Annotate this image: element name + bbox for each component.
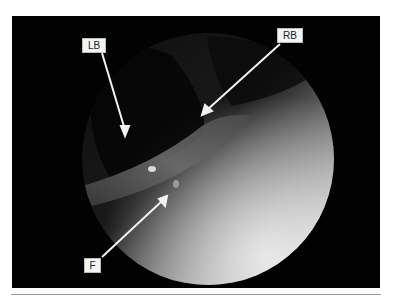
bottom-divider <box>11 294 381 295</box>
label-rb: RB <box>277 28 303 43</box>
label-lb: LB <box>82 38 106 53</box>
label-f: F <box>84 258 101 273</box>
endoscope-frame <box>12 16 380 288</box>
endoscopic-view <box>12 16 380 288</box>
